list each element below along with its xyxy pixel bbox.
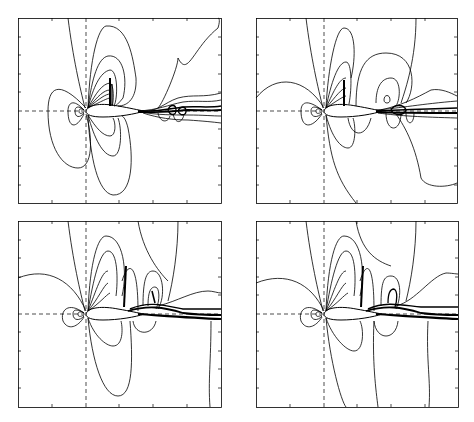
contour-plot bbox=[18, 18, 222, 204]
contour-plot bbox=[18, 221, 222, 408]
contour-plot bbox=[256, 18, 458, 204]
panel-bottom-left bbox=[18, 221, 222, 408]
contour-plot bbox=[256, 221, 459, 408]
panel-top-left bbox=[18, 18, 222, 204]
panel-bottom-right bbox=[256, 221, 459, 408]
panel-top-right bbox=[256, 18, 458, 204]
